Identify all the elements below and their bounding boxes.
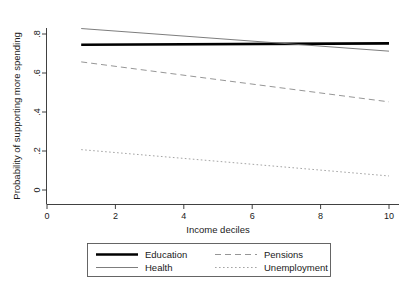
line-chart: .8 .6 .4 .2 0 Probability of supporting … — [0, 0, 411, 291]
y-tick-label-0: 0 — [32, 187, 42, 192]
y-axis-title: Probability of supporting more spending — [11, 32, 22, 199]
x-axis-title: Income deciles — [186, 224, 250, 235]
y-tick-label-0.4: .4 — [32, 108, 42, 116]
series-line-education — [81, 43, 389, 44]
y-tick-label-0.8: .8 — [32, 30, 42, 38]
chart-figure: .8 .6 .4 .2 0 Probability of supporting … — [0, 0, 411, 291]
x-tick-label-4: 4 — [181, 211, 186, 221]
x-tick-label-2: 2 — [113, 211, 118, 221]
legend-label-health: Health — [145, 262, 172, 273]
legend-label-unemployment: Unemployment — [264, 262, 328, 273]
legend-label-education: Education — [145, 249, 187, 260]
x-tick-label-6: 6 — [250, 211, 255, 221]
x-tick-label-10: 10 — [384, 211, 394, 221]
y-tick-label-0.2: .2 — [32, 147, 42, 155]
legend-label-pensions: Pensions — [264, 249, 303, 260]
x-tick-label-0: 0 — [44, 211, 49, 221]
y-tick-label-0.6: .6 — [32, 69, 42, 77]
x-tick-label-8: 8 — [318, 211, 323, 221]
